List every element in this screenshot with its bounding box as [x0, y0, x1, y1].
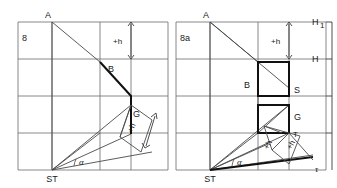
label-B-right: B [244, 80, 250, 90]
label-H1-subscript: 1 [320, 21, 325, 30]
label-G-left: G [133, 109, 140, 119]
ray-A-to-Bupper [52, 22, 100, 62]
label-B-left: B [108, 64, 114, 74]
panel-caption-right: 8a [180, 33, 190, 43]
label-A-right: A [203, 10, 209, 20]
label-ST-left: ST [46, 174, 58, 184]
label-T-right: T [293, 130, 298, 139]
label-alpha-left: α [79, 157, 84, 167]
label-H1-base: H [312, 17, 319, 27]
label-alpha-right: α [237, 157, 242, 167]
ray-ST-to-G [52, 105, 131, 170]
bold-profile-B-G [100, 62, 131, 134]
label-A-left: A [45, 10, 51, 20]
diagram-canvas: 8 A B G ST α +h +h [0, 0, 337, 188]
panel-caption-left: 8 [22, 33, 27, 43]
dim-label-h-upper-left: +h [113, 37, 122, 46]
left-bold-profile [100, 62, 131, 134]
ray-ST-lower [52, 152, 152, 170]
horizon-label-H1: H 1 [312, 17, 325, 30]
label-ST-right: ST [204, 174, 216, 184]
label-G-right: G [294, 112, 301, 122]
right-panel: 8a A B G S T ST α +h +h +h H 1 H τ [176, 10, 332, 184]
dim-line-rot [146, 116, 155, 146]
right-grid [176, 22, 326, 170]
left-dim-upper [128, 22, 134, 59]
dim-label-h-rotated-left: +h [126, 122, 138, 134]
left-panel: 8 A B G ST α +h +h [18, 10, 168, 184]
ray-A-to-S [210, 22, 289, 88]
label-S-right: S [294, 85, 300, 95]
right-dim-upper [286, 22, 292, 59]
right-horizon-markers [326, 22, 332, 170]
bold-top-parallelogram [258, 62, 289, 96]
label-tau: τ [315, 164, 319, 174]
technical-diagram-svg: 8 A B G ST α +h +h [0, 0, 337, 188]
dim-label-h-upper-right: +h [271, 37, 280, 46]
label-H-right: H [312, 54, 319, 64]
rot-edge-inner [264, 126, 289, 133]
